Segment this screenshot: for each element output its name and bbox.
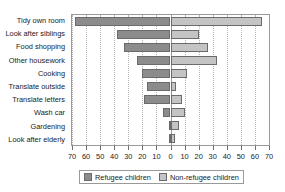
- category-label: Look after siblings: [5, 27, 65, 40]
- category-label: Translate letters: [12, 93, 65, 106]
- x-axis-tick: [269, 146, 270, 150]
- legend-swatch-icon: [159, 173, 167, 181]
- bar-row: [72, 28, 269, 41]
- bar-non-refugee-children: [171, 95, 182, 105]
- x-axis-tick: [72, 146, 73, 150]
- category-label: Other housework: [9, 54, 65, 67]
- legend-swatch-icon: [84, 173, 92, 181]
- legend-item-non-refugee-children: Non-refugee children: [159, 173, 239, 182]
- x-axis-tick: [100, 146, 101, 150]
- category-label: Cooking: [38, 67, 65, 80]
- bar-refugee-children: [75, 17, 171, 27]
- bar-row: [72, 93, 269, 106]
- gridline: [269, 15, 270, 145]
- bar-row: [72, 15, 269, 28]
- bar-non-refugee-children: [171, 69, 188, 79]
- x-axis-tick: [142, 146, 143, 150]
- x-axis-tick-label: 70: [259, 151, 279, 162]
- bar-refugee-children: [117, 30, 170, 40]
- legend-item-refugee-children: Refugee children: [84, 173, 151, 182]
- category-label: Food shopping: [16, 40, 65, 53]
- x-axis-tick: [156, 146, 157, 150]
- bar-row: [72, 80, 269, 93]
- bar-row: [72, 119, 269, 132]
- bar-refugee-children: [144, 95, 171, 105]
- plot-area: [71, 14, 270, 146]
- x-axis-tick: [213, 146, 214, 150]
- bar-non-refugee-children: [171, 82, 177, 92]
- bar-non-refugee-children: [171, 121, 179, 131]
- bar-refugee-children: [163, 108, 170, 118]
- bar-refugee-children: [124, 43, 170, 53]
- bar-non-refugee-children: [171, 108, 185, 118]
- x-axis-tick: [255, 146, 256, 150]
- x-axis-tick: [86, 146, 87, 150]
- x-axis-tick: [241, 146, 242, 150]
- legend-label: Refugee children: [95, 173, 151, 182]
- category-label: Tidy own room: [17, 14, 65, 27]
- x-axis-tick: [128, 146, 129, 150]
- legend-label: Non-refugee children: [170, 173, 239, 182]
- bar-refugee-children: [137, 56, 171, 66]
- category-label: Translate outside: [9, 80, 65, 93]
- x-axis-tick: [114, 146, 115, 150]
- bar-row: [72, 67, 269, 80]
- bar-row: [72, 132, 269, 145]
- chart-container: Tidy own room Look after siblings Food s…: [0, 0, 285, 192]
- x-axis-tick: [199, 146, 200, 150]
- bar-non-refugee-children: [171, 56, 217, 66]
- bar-row: [72, 106, 269, 119]
- x-axis-tick: [227, 146, 228, 150]
- x-axis-tick-labels: 70605040302010010203040506070: [61, 151, 280, 162]
- bar-non-refugee-children: [171, 17, 262, 27]
- bar-row: [72, 41, 269, 54]
- bar-non-refugee-children: [171, 134, 175, 144]
- category-label: Wash car: [34, 106, 65, 119]
- bar-non-refugee-children: [171, 43, 209, 53]
- bar-row: [72, 54, 269, 67]
- chart-legend: Refugee children Non-refugee children: [79, 170, 244, 184]
- x-axis-tick: [185, 146, 186, 150]
- category-label: Gardening: [30, 120, 65, 133]
- bar-non-refugee-children: [171, 30, 199, 40]
- y-axis-category-labels: Tidy own room Look after siblings Food s…: [0, 14, 68, 146]
- bar-refugee-children: [147, 82, 171, 92]
- x-axis-tick: [171, 146, 172, 150]
- category-label: Look after elderly: [8, 133, 65, 146]
- bar-refugee-children: [142, 69, 170, 79]
